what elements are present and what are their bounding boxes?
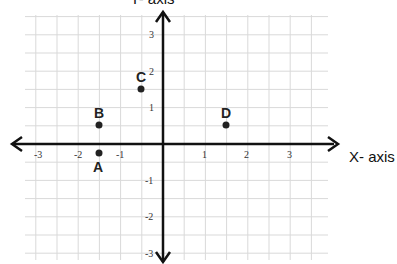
coordinate-plane: -3 -2 -1 1 2 3 3 2 1 -1 -2 -3 A B C D X-… [0, 0, 397, 264]
point-a: A [93, 150, 103, 176]
point-d: D [221, 105, 231, 129]
y-tick-neg1: -1 [145, 175, 153, 186]
y-tick-2: 2 [149, 66, 154, 77]
y-tick-1: 1 [149, 102, 154, 113]
svg-text:B: B [94, 105, 104, 121]
x-tick-neg2: -2 [74, 149, 82, 160]
y-tick-neg3: -3 [145, 248, 153, 259]
svg-text:D: D [221, 105, 231, 121]
grid [25, 15, 328, 260]
x-tick-neg1: -1 [116, 149, 124, 160]
y-axis [156, 12, 170, 262]
x-tick-neg3: -3 [34, 149, 42, 160]
svg-text:C: C [136, 69, 146, 85]
x-tick-2: 2 [244, 149, 249, 160]
svg-text:A: A [93, 159, 103, 175]
y-tick-neg2: -2 [145, 211, 153, 222]
x-tick-1: 1 [202, 149, 207, 160]
y-axis-title: Y- axis [130, 0, 174, 7]
point-b: B [94, 105, 104, 129]
x-axis-title: X- axis [349, 148, 395, 165]
x-tick-3: 3 [287, 149, 292, 160]
y-tick-3: 3 [149, 29, 154, 40]
